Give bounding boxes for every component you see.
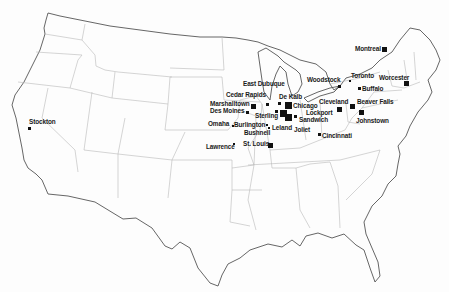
- label-de-kalb: De Kalb: [279, 94, 302, 100]
- label-burlington: Burlington: [234, 122, 265, 128]
- label-cleveland: Cleveland: [319, 99, 348, 105]
- label-bushnell: Bushnell: [244, 130, 270, 136]
- marker-montreal[interactable]: [382, 47, 387, 52]
- label-beaver-falls: Beaver Falls: [357, 99, 393, 105]
- marker-de-kalb[interactable]: [278, 102, 281, 105]
- label-worcester: Worcester: [379, 75, 409, 81]
- marker-leland[interactable]: [280, 110, 287, 117]
- marker-chicago[interactable]: [285, 102, 292, 109]
- label-sterling: Sterling: [255, 113, 278, 119]
- marker-woodstock[interactable]: [338, 85, 341, 88]
- label-leland: Leland: [272, 125, 292, 131]
- label-sandwich: Sandwich: [299, 117, 328, 123]
- marker-cincinnati[interactable]: [318, 133, 321, 136]
- label-johnstown: Johnstown: [356, 118, 389, 124]
- marker-toronto[interactable]: [349, 80, 351, 82]
- marker-burlington[interactable]: [266, 124, 268, 126]
- label-omaha: Omaha: [208, 121, 229, 127]
- label-cincinnati: Cincinnati: [322, 133, 352, 139]
- marker-marshalltown[interactable]: [251, 104, 256, 109]
- label-joliet: Joliet: [294, 127, 310, 133]
- marker-stockton[interactable]: [28, 127, 31, 130]
- label-toronto: Toronto: [351, 73, 374, 79]
- label-lawrence: Lawrence: [206, 144, 235, 150]
- marker-joliet[interactable]: [294, 115, 297, 118]
- label-des-moines: Des Moines: [210, 108, 245, 114]
- marker-buffalo[interactable]: [358, 87, 361, 90]
- marker-johnstown[interactable]: [359, 110, 364, 115]
- marker-cleveland[interactable]: [337, 107, 342, 112]
- marker-des-moines[interactable]: [246, 111, 249, 114]
- marker-beaver-falls[interactable]: [350, 104, 355, 109]
- label-cedar-rapids: Cedar Rapids: [226, 92, 266, 98]
- label-stockton: Stockton: [29, 119, 56, 125]
- label-east-dubuque: East Dubuque: [243, 81, 285, 87]
- marker-east-dubuque[interactable]: [266, 103, 269, 106]
- label-montreal: Montreal: [355, 46, 381, 52]
- label-st-louis: St. Louis: [243, 141, 269, 147]
- label-buffalo: Buffalo: [362, 86, 383, 92]
- label-woodstock: Woodstock: [307, 77, 340, 83]
- marker-worcester[interactable]: [404, 81, 409, 86]
